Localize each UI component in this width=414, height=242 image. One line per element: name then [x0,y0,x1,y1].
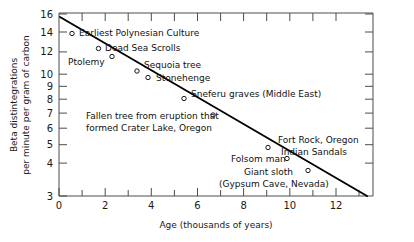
x-tick-label: 4 [148,200,154,211]
y-tick-label: 9 [47,81,53,92]
x-tick-label: 6 [194,200,200,211]
x-tick-label: 12 [330,200,343,211]
x-tick-label: 8 [240,200,246,211]
x-tick-label: 10 [283,200,296,211]
annotation-earliest-polynesian-culture: Earliest Polynesian Culture [79,28,200,38]
y-axis-title-line1: Beta distintegrations [9,58,19,152]
annotation-fallen-tree-line1: Fallen tree from eruption that [86,111,219,121]
y-tick-label: 4 [47,158,53,169]
annotation-dead-sea-scrolls: Dead Sea Scrolls [105,43,181,53]
y-axis-title-line2: per minute per gram of carbon [21,35,31,174]
y-tick-label: 3 [47,191,53,202]
annotation-sequoia-tree: Sequoia tree [144,60,202,70]
annotation-giant-sloth-line2: (Gypsum Cave, Nevada) [219,179,329,189]
annotation-fallen-tree-line2: formed Crater Lake, Oregon [86,123,212,133]
annotation-stonehenge: Stonehenge [156,73,211,83]
data-point-marker [306,168,310,172]
data-point-marker [96,46,100,50]
annotation-fort-rock-line2: Indian Sandals [281,147,347,157]
y-tick-label: 12 [40,46,53,57]
y-tick-label: 14 [40,27,53,38]
chart-canvas: 16 14 12 10 9 8 7 6 5 4 3 0 2 4 6 8 10 1… [0,0,414,242]
annotation-sneferu-graves: Sneferu graves (Middle East) [191,89,321,99]
annotation-folsom-man: Folsom man [231,154,286,164]
annotation-ptolemy: Ptolemy [68,57,105,67]
data-point-marker [70,31,74,35]
data-point-marker [266,145,270,149]
y-tick-label: 5 [47,139,53,150]
y-tick-label: 16 [40,9,53,20]
annotation-fort-rock-line1: Fort Rock, Oregon [278,135,359,145]
y-tick-label: 7 [47,108,53,119]
radiocarbon-decay-chart: 16 14 12 10 9 8 7 6 5 4 3 0 2 4 6 8 10 1… [0,0,414,242]
data-point-marker [135,69,139,73]
data-point-marker [110,54,114,58]
y-tick-label: 10 [40,69,53,80]
x-tick-label: 0 [56,200,62,211]
y-tick-label: 8 [47,94,53,105]
x-axis-title: Age (thousands of years) [159,220,272,230]
annotation-giant-sloth-line1: Giant sloth [244,167,293,177]
data-point-marker [182,96,186,100]
x-tick-label: 2 [102,200,108,211]
data-point-marker [146,75,150,79]
y-tick-label: 6 [47,123,53,134]
